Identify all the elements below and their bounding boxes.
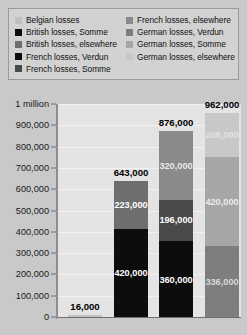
bar-segment-value-label: 336,000 <box>205 277 239 287</box>
legend-item-label: German losses, Verdun <box>137 26 223 38</box>
legend-column-left: Belgian losses British losses, Somme Bri… <box>15 14 127 75</box>
y-axis-tick-label: 900,000 <box>16 120 49 130</box>
legend-item-french-losses-verdun: French losses, Verdun <box>15 51 127 63</box>
legend-item-french-losses-elsewhere: French losses, elsewhere <box>126 14 238 26</box>
bar-total-label: 876,000 <box>159 117 194 128</box>
legend-item-label: German losses, elsewhere <box>137 51 235 63</box>
bar-segment-value-label: 360,000 <box>159 275 193 285</box>
legend-item-label: French losses, elsewhere <box>137 14 231 26</box>
legend-item-label: French losses, Somme <box>26 63 111 75</box>
legend-swatch-icon <box>126 53 133 60</box>
legend-swatch-icon <box>15 17 22 24</box>
bar-segment[interactable]: 223,000 <box>114 181 148 228</box>
legend-item-french-losses-somme: French losses, Somme <box>15 63 127 75</box>
legend-item-label: British losses, elsewhere <box>26 38 117 50</box>
bar-segment[interactable]: 420,000 <box>114 229 148 318</box>
bar-segment-value-label: 420,000 <box>205 197 239 207</box>
legend-swatch-icon <box>126 17 133 24</box>
legend-item-german-losses-verdun: German losses, Verdun <box>126 26 238 38</box>
legend-item-german-losses-elsewhere: German losses, elsewhere <box>126 51 238 63</box>
y-axis: 0100,000200,000300,000400,000500,000600,… <box>0 104 57 319</box>
y-axis-tick-label: 300,000 <box>16 248 49 258</box>
y-axis-tick-label: 600,000 <box>16 184 49 194</box>
y-axis-tick-label: 700,000 <box>16 163 49 173</box>
bar-british[interactable]: 420,000223,000 <box>114 181 148 318</box>
bar-segment-value-label: 206,000 <box>205 130 239 140</box>
bar-segment[interactable]: 420,000 <box>205 157 239 246</box>
legend-item-label: British losses, Somme <box>26 26 108 38</box>
legend-item-label: Belgian losses <box>26 14 79 26</box>
bar-segment-value-label: 320,000 <box>159 161 193 171</box>
bar-french[interactable]: 360,000196,000320,000 <box>159 131 193 318</box>
bar-segment[interactable]: 206,000 <box>205 113 239 157</box>
bar-segment[interactable]: 360,000 <box>159 241 193 318</box>
x-axis-baseline <box>58 317 241 318</box>
bar-total-label: 962,000 <box>205 99 240 110</box>
bar-german[interactable]: 336,000420,000206,000 <box>205 113 239 318</box>
legend-column-right: French losses, elsewhere German losses, … <box>126 14 238 63</box>
legend-item-british-losses-somme: British losses, Somme <box>15 26 127 38</box>
legend-item-label: German losses, Somme <box>137 38 226 50</box>
bar-segment-value-label: 223,000 <box>114 200 148 210</box>
y-axis-tick-label: 100,000 <box>16 291 49 301</box>
bar-segment[interactable]: 336,000 <box>205 246 239 318</box>
y-axis-tick-label: 500,000 <box>16 206 49 216</box>
bar-segment[interactable]: 320,000 <box>159 131 193 199</box>
legend-item-label: French losses, Verdun <box>26 51 108 63</box>
legend-swatch-icon <box>126 41 133 48</box>
legend-item-belgian-losses: Belgian losses <box>15 14 127 26</box>
plot-area: 16,000643,000420,000223,000876,000360,00… <box>57 104 241 318</box>
y-axis-tick-label: 200,000 <box>16 269 49 279</box>
legend-swatch-icon <box>126 29 133 36</box>
legend-swatch-icon <box>15 53 22 60</box>
legend-item-british-losses-elsewhere: British losses, elsewhere <box>15 38 127 50</box>
bar-segment[interactable]: 196,000 <box>159 200 193 242</box>
bar-segment-value-label: 196,000 <box>159 215 193 225</box>
bar-total-label: 16,000 <box>70 301 99 312</box>
y-axis-tick-label: 800,000 <box>16 142 49 152</box>
y-axis-tick-label: 400,000 <box>16 227 49 237</box>
legend-item-german-losses-somme: German losses, Somme <box>126 38 238 50</box>
chart-screenshot: Belgian losses British losses, Somme Bri… <box>0 0 247 335</box>
bar-total-label: 643,000 <box>114 167 149 178</box>
y-axis-tick-label: 1 million <box>15 99 49 109</box>
legend-swatch-icon <box>15 65 22 72</box>
y-axis-tick-label: 0 <box>44 312 49 322</box>
bar-segment-value-label: 420,000 <box>114 268 148 278</box>
chart-legend: Belgian losses British losses, Somme Bri… <box>8 8 239 80</box>
legend-swatch-icon <box>15 41 22 48</box>
legend-swatch-icon <box>15 29 22 36</box>
